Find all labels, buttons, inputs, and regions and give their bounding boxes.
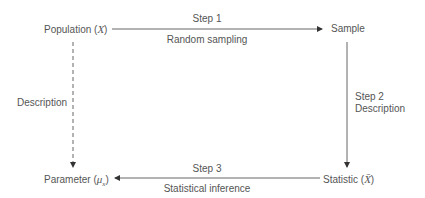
statistic-close: ) [371,174,374,185]
statistic-symbol: X̄ [364,173,371,185]
step2-label: Step 2 [355,91,384,103]
node-parameter: Parameter (μx) [44,173,109,190]
node-population: Population (X) [44,23,107,36]
step1-desc: Random sampling [167,34,248,46]
population-label: Population ( [44,24,97,35]
step1-label: Step 1 [193,13,222,25]
node-sample: Sample [331,23,365,35]
parameter-label: Parameter ( [44,174,97,185]
parameter-close: ) [105,174,108,185]
step2-desc: Description [355,103,405,115]
step3-desc: Statistical inference [164,183,251,195]
population-close: ) [104,24,107,35]
statistic-label: Statistic ( [323,174,364,185]
description-label: Description [17,97,67,109]
step3-label: Step 3 [193,163,222,175]
node-statistic: Statistic (X̄) [323,173,374,186]
